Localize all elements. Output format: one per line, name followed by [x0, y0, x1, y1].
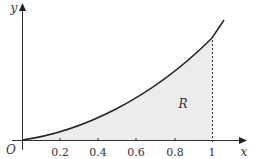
tick-label: 1	[209, 146, 216, 159]
tick-label: 0.4	[89, 146, 107, 159]
x-axis-label: x	[241, 145, 248, 159]
tick-label: 0.8	[166, 146, 184, 159]
y-axis-label: y	[10, 1, 18, 15]
x-axis-arrow-icon	[239, 137, 247, 144]
tick-label: 0.6	[127, 146, 145, 159]
region-label: R	[177, 97, 187, 111]
y-axis-arrow-icon	[19, 3, 26, 11]
shaded-region-r	[22, 38, 212, 140]
graph: 0.2 0.4 0.6 0.8 1 x y O R	[0, 0, 257, 159]
origin-label: O	[6, 143, 16, 157]
tick-label: 0.2	[51, 146, 69, 159]
